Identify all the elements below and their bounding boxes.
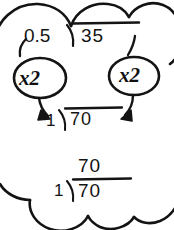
top-dividend: 35 — [81, 26, 104, 45]
connector-right-in — [128, 36, 135, 55]
top-divisor: 0.5 — [24, 26, 50, 45]
bottom-dividend: 70 — [78, 181, 101, 200]
middle-divisor: 1 — [46, 112, 55, 129]
right-multiplier-label: x2 — [119, 65, 140, 86]
left-multiplier-label: x2 — [19, 68, 40, 89]
division-bracket-hook-bottom — [67, 181, 73, 201]
note-canvas: 0.5 35 x2 x2 1 70 70 1 70 — [0, 0, 174, 230]
middle-dividend: 70 — [70, 110, 92, 128]
division-bracket-hook-middle — [59, 110, 65, 130]
bottom-quotient: 70 — [78, 156, 101, 175]
bottom-divisor: 1 — [54, 182, 63, 199]
division-bracket-hook-top — [67, 25, 73, 46]
division-vinculum-top — [73, 23, 139, 24]
